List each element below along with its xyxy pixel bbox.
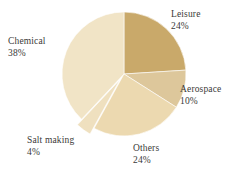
pie-chart: Leisure 24% Aerospace 10% Others 24% Sal…	[0, 0, 252, 176]
pie-label-others-name: Others	[133, 143, 159, 155]
pie-label-salt-making-name: Salt making	[27, 135, 74, 147]
pie-label-aerospace: Aerospace 10%	[180, 84, 221, 107]
pie-slice-group	[62, 12, 186, 136]
pie-label-others: Others 24%	[133, 143, 159, 166]
pie-label-salt-making: Salt making 4%	[27, 135, 74, 158]
pie-label-others-value: 24%	[133, 155, 159, 167]
pie-label-leisure-value: 24%	[171, 21, 201, 33]
pie-label-leisure-name: Leisure	[171, 9, 201, 21]
pie-label-leisure: Leisure 24%	[171, 9, 201, 32]
pie-label-aerospace-name: Aerospace	[180, 84, 221, 96]
pie-label-chemical-value: 38%	[8, 48, 46, 60]
pie-label-salt-making-value: 4%	[27, 147, 74, 159]
pie-label-aerospace-value: 10%	[180, 96, 221, 108]
pie-label-chemical-name: Chemical	[8, 36, 46, 48]
pie-label-chemical: Chemical 38%	[8, 36, 46, 59]
